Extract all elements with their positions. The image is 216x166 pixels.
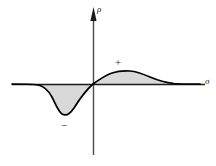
- rho-axis-label: ρ: [97, 5, 101, 14]
- positive-lobe-fill: [93, 71, 200, 84]
- negative-lobe-sign: −: [61, 120, 67, 131]
- figure-container: ρ σ + −: [0, 0, 216, 166]
- positive-lobe-sign: +: [115, 57, 121, 68]
- plot-canvas: [0, 0, 216, 166]
- rho-axis-arrowhead: [90, 7, 96, 21]
- sigma-axis-label: σ: [205, 77, 209, 86]
